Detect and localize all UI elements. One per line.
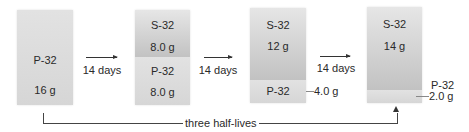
s32-mass: 8.0 g — [135, 41, 190, 53]
s32-label: S-32 — [367, 18, 422, 30]
p32-label: P-32 — [135, 65, 190, 77]
arrow-3-icon — [320, 56, 350, 57]
bracket-arrowhead-icon — [393, 106, 399, 112]
stage-2-box: S-32 8.0 g P-32 8.0 g — [135, 10, 190, 105]
p32-label: P-32 — [17, 54, 73, 66]
s32-segment: S-32 8.0 g — [135, 10, 190, 57]
p32-mass-leader — [306, 91, 314, 92]
s32-segment: S-32 12 g — [250, 8, 306, 80]
p32-mass-leader — [416, 96, 429, 97]
arrow-1-icon — [86, 57, 117, 58]
p32-mass: 8.0 g — [135, 86, 190, 98]
p32-segment — [367, 90, 422, 103]
p32-mass: 2.0 g — [429, 90, 453, 102]
p32-segment: P-32 16 g — [17, 10, 73, 105]
stage-4-box: S-32 14 g — [367, 7, 422, 103]
p32-segment: P-32 — [250, 80, 306, 103]
p32-mass: 4.0 g — [314, 85, 338, 97]
stage-1-box: P-32 16 g — [17, 10, 73, 105]
s32-label: S-32 — [250, 19, 306, 31]
p32-mass: 16 g — [17, 84, 73, 96]
s32-mass: 12 g — [250, 40, 306, 52]
s32-mass: 14 g — [367, 40, 422, 52]
transition-1-label: 14 days — [77, 64, 127, 76]
stage-3-box: S-32 12 g P-32 — [250, 8, 306, 103]
transition-3-label: 14 days — [311, 62, 361, 74]
half-lives-label: three half-lives — [183, 117, 259, 129]
s32-label: S-32 — [135, 19, 190, 31]
p32-label: P-32 — [250, 85, 306, 97]
s32-segment: S-32 14 g — [367, 7, 422, 90]
p32-segment: P-32 8.0 g — [135, 57, 190, 105]
arrow-2-icon — [204, 57, 232, 58]
transition-2-label: 14 days — [193, 64, 243, 76]
